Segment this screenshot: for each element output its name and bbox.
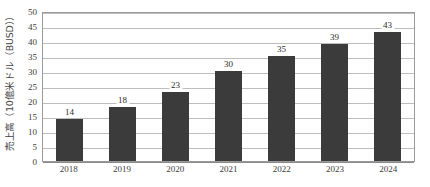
y-axis-tick-label: 0	[33, 157, 38, 167]
y-axis-tick-label: 25	[28, 82, 37, 92]
x-axis-tick-label: 2020	[149, 164, 202, 180]
y-axis-tick-label: 45	[28, 22, 37, 32]
y-axis-title: 売上高（10億米ドル（BUSD））	[0, 0, 18, 162]
y-axis-tick-label: 10	[28, 127, 37, 137]
bar[interactable]	[268, 56, 295, 161]
bar[interactable]	[56, 119, 83, 161]
y-axis-tick-label: 20	[28, 97, 37, 107]
x-axis-tick-label: 2018	[42, 164, 95, 180]
y-axis-tick-label: 15	[28, 112, 37, 122]
y-axis-tick-label: 5	[33, 142, 38, 152]
bar-value-label: 43	[381, 20, 394, 30]
bar[interactable]	[162, 92, 189, 161]
bar-value-label: 18	[116, 95, 129, 105]
bar[interactable]	[321, 44, 348, 161]
y-axis-tick-label: 50	[28, 7, 37, 17]
x-axis-tick-label: 2023	[308, 164, 361, 180]
x-axis-tick-label: 2024	[362, 164, 415, 180]
bar[interactable]	[109, 107, 136, 161]
x-axis-tick-label: 2019	[95, 164, 148, 180]
x-axis-tick-labels: 2018201920202021202220232024	[42, 164, 415, 180]
bar-slot: 43	[361, 13, 414, 161]
y-axis-tick-labels: 50454035302520151050	[18, 12, 40, 162]
bar-value-label: 23	[169, 80, 182, 90]
bar-slot: 23	[149, 13, 202, 161]
x-axis-tick-label: 2021	[202, 164, 255, 180]
bar-value-label: 35	[275, 44, 288, 54]
bar-slot: 35	[255, 13, 308, 161]
y-axis-tick-label: 40	[28, 37, 37, 47]
bar-value-label: 30	[222, 59, 235, 69]
bar[interactable]	[215, 71, 242, 161]
bar-slot: 14	[43, 13, 96, 161]
y-axis-title-text: 売上高（10億米ドル（BUSD））	[2, 11, 16, 152]
bar-slot: 18	[96, 13, 149, 161]
y-axis-tick-label: 30	[28, 67, 37, 77]
y-axis-tick-label: 35	[28, 52, 37, 62]
bar-value-label: 14	[63, 107, 76, 117]
bar-value-label: 39	[328, 32, 341, 42]
bar-slot: 30	[202, 13, 255, 161]
bars-layer: 14182330353943	[43, 13, 414, 161]
bar-slot: 39	[308, 13, 361, 161]
x-axis-tick-label: 2022	[255, 164, 308, 180]
bar[interactable]	[374, 32, 401, 161]
axis-baseline	[43, 162, 414, 163]
plot-area: 14182330353943	[42, 12, 415, 162]
bar-chart-figure: 売上高（10億米ドル（BUSD）） 50454035302520151050 1…	[0, 0, 430, 187]
